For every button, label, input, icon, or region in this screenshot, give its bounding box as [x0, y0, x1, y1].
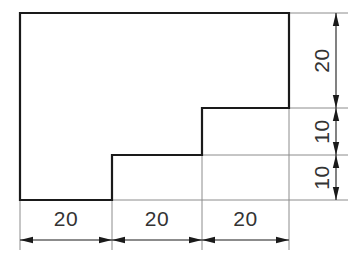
height-segment-bottom-arrow-start — [333, 155, 339, 168]
height-segment-middle-arrow-end — [333, 142, 339, 155]
width-segment-right-arrow-end — [276, 237, 289, 243]
height-segment-bottom-arrow-end — [333, 187, 339, 200]
width-segment-left-label: 20 — [54, 207, 78, 230]
height-segment-bottom-label: 10 — [310, 165, 333, 189]
height-segment-top-arrow-end — [333, 95, 339, 108]
drawing-svg: 201010 202020 — [0, 0, 354, 259]
width-segment-middle-label: 20 — [145, 207, 169, 230]
technical-drawing-canvas: 201010 202020 — [0, 0, 354, 259]
width-segment-left-arrow-start — [20, 237, 33, 243]
height-segment-top-arrow-start — [333, 13, 339, 26]
width-segment-left-arrow-end — [99, 237, 112, 243]
height-segment-middle-arrow-start — [333, 108, 339, 121]
height-segment-middle-label: 10 — [310, 119, 333, 143]
stepped-profile-outline — [20, 13, 289, 200]
height-segment-top-label: 20 — [310, 48, 333, 72]
width-segment-middle-arrow-start — [112, 237, 125, 243]
shape-outline-group — [20, 13, 289, 200]
width-segment-right-arrow-start — [202, 237, 215, 243]
horizontal-dimensions-group: 202020 — [20, 207, 289, 243]
width-segment-right-label: 20 — [233, 207, 257, 230]
width-segment-middle-arrow-end — [189, 237, 202, 243]
vertical-dimensions-group: 201010 — [310, 13, 339, 200]
